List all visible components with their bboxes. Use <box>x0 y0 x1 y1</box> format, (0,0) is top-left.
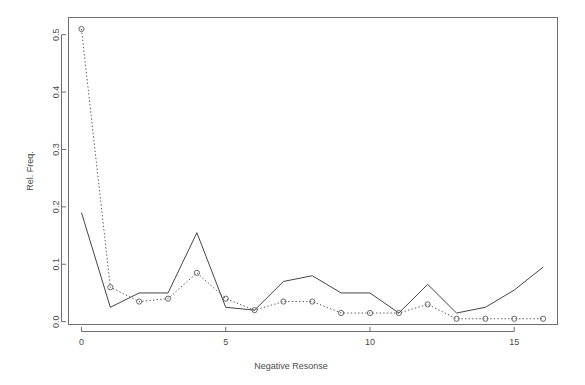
x-tick-label: 0 <box>79 337 84 347</box>
y-tick-label: 0.5 <box>52 28 62 41</box>
chart-figure: 0.00.10.20.30.40.5 051015 Negative Reson… <box>0 0 585 385</box>
figure-background <box>0 0 585 385</box>
y-tick-label: 0.2 <box>52 201 62 214</box>
y-tick-label: 0.1 <box>52 258 62 271</box>
y-axis-title: Rel. Freq. <box>25 151 35 191</box>
plot-svg: 0.00.10.20.30.40.5 051015 Negative Reson… <box>0 0 585 385</box>
x-tick-label: 15 <box>509 337 519 347</box>
y-tick-label: 0.3 <box>52 143 62 156</box>
y-tick-label: 0.0 <box>52 315 62 328</box>
x-axis-title: Negative Resonse <box>254 361 328 371</box>
x-tick-label: 10 <box>365 337 375 347</box>
x-tick-label: 5 <box>223 337 228 347</box>
y-tick-label: 0.4 <box>52 86 62 99</box>
